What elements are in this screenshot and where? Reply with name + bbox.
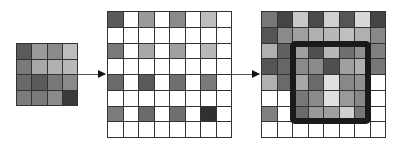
grid-cell	[371, 12, 386, 27]
grid-cell	[262, 12, 277, 27]
grid-cell	[32, 91, 46, 106]
grid-cell	[170, 75, 185, 90]
grid-cell	[371, 122, 386, 137]
grid-cell	[32, 75, 46, 90]
grid-cell	[17, 91, 31, 106]
grid-cell	[201, 12, 216, 27]
grid-cell	[278, 28, 293, 43]
grid-cell	[371, 44, 386, 59]
grid-cell	[108, 28, 123, 43]
grid-cell	[124, 59, 139, 74]
grid-cell	[186, 59, 201, 74]
grid-cell	[371, 28, 386, 43]
grid-cell	[293, 12, 308, 27]
grid-cell	[186, 28, 201, 43]
grid-cell	[262, 28, 277, 43]
grid-cell	[48, 91, 62, 106]
grid-cell	[108, 59, 123, 74]
grid-cell	[155, 59, 170, 74]
grid-cell	[217, 107, 232, 122]
grid-cell	[48, 75, 62, 90]
grid-cell	[371, 75, 386, 90]
grid-cell	[155, 12, 170, 27]
grid-cell	[201, 59, 216, 74]
grid-cell	[108, 122, 123, 137]
grid-cell	[63, 44, 77, 59]
grid-cell	[63, 91, 77, 106]
grid-cell	[124, 12, 139, 27]
grid-cell	[155, 107, 170, 122]
grid-cell	[201, 91, 216, 106]
grid-cell	[355, 12, 370, 27]
input-grid-4x4	[16, 43, 78, 106]
grid-cell	[124, 91, 139, 106]
grid-cell	[17, 75, 31, 90]
grid-cell	[63, 60, 77, 75]
grid-cell	[155, 75, 170, 90]
grid-cell	[186, 107, 201, 122]
grid-cell	[155, 44, 170, 59]
grid-cell	[340, 122, 355, 137]
grid-cell	[108, 107, 123, 122]
grid-cell	[139, 75, 154, 90]
grid-cell	[186, 44, 201, 59]
grid-cell	[170, 91, 185, 106]
grid-cell	[217, 12, 232, 27]
grid-cell	[262, 75, 277, 90]
grid-cell	[170, 59, 185, 74]
grid-cell	[170, 12, 185, 27]
grid-cell	[324, 12, 339, 27]
grid-cell	[217, 91, 232, 106]
grid-cell	[371, 107, 386, 122]
grid-cell	[201, 107, 216, 122]
grid-cell	[217, 75, 232, 90]
grid-cell	[201, 28, 216, 43]
grid-cell	[324, 122, 339, 137]
grid-cell	[217, 122, 232, 137]
arrow-right-icon	[78, 74, 105, 75]
grid-cell	[32, 44, 46, 59]
grid-cell	[371, 91, 386, 106]
grid-cell	[139, 91, 154, 106]
grid-cell	[262, 91, 277, 106]
grid-cell	[48, 60, 62, 75]
grid-cell	[186, 12, 201, 27]
grid-cell	[340, 12, 355, 27]
grid-cell	[124, 122, 139, 137]
grid-cell	[17, 60, 31, 75]
grid-cell	[155, 91, 170, 106]
grid-cell	[155, 28, 170, 43]
grid-cell	[186, 91, 201, 106]
grid-cell	[217, 28, 232, 43]
grid-cell	[108, 75, 123, 90]
grid-cell	[262, 122, 277, 137]
grid-cell	[124, 107, 139, 122]
grid-cell	[17, 44, 31, 59]
grid-cell	[108, 12, 123, 27]
grid-cell	[262, 107, 277, 122]
grid-cell	[186, 75, 201, 90]
grid-cell	[309, 12, 324, 27]
grid-cell	[262, 44, 277, 59]
arrow-right-icon	[232, 74, 259, 75]
zero-inserted-grid-8x8	[107, 11, 232, 138]
grid-cell	[201, 44, 216, 59]
grid-cell	[355, 122, 370, 137]
grid-cell	[309, 122, 324, 137]
grid-cell	[217, 59, 232, 74]
grid-cell	[170, 44, 185, 59]
grid-cell	[170, 28, 185, 43]
grid-cell	[139, 122, 154, 137]
grid-cell	[371, 59, 386, 74]
grid-cell	[108, 44, 123, 59]
grid-cell	[124, 75, 139, 90]
grid-cell	[155, 122, 170, 137]
grid-cell	[139, 44, 154, 59]
grid-cell	[48, 44, 62, 59]
grid-cell	[170, 122, 185, 137]
grid-cell	[139, 28, 154, 43]
grid-cell	[63, 75, 77, 90]
grid-cell	[170, 107, 185, 122]
grid-cell	[201, 75, 216, 90]
grid-cell	[278, 12, 293, 27]
